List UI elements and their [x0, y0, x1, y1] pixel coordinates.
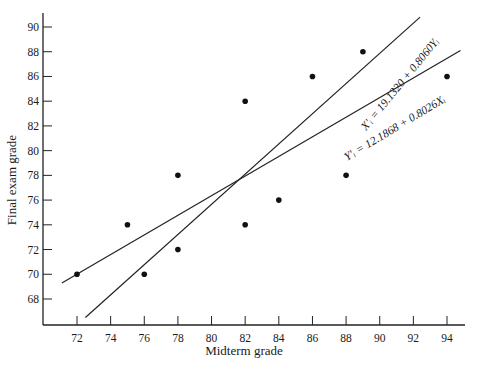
- data-point: [276, 197, 282, 203]
- x-axis-label: Midterm grade: [205, 343, 283, 358]
- y-tick-label: 74: [28, 219, 40, 231]
- y-on-x-equation-label: Y'ᵢ = 12.1868 + 0.8026Xᵢ: [342, 93, 447, 163]
- y-tick-label: 72: [28, 244, 40, 256]
- axes: 7274767880828486889092946870727476788082…: [28, 13, 466, 344]
- data-point: [310, 74, 316, 80]
- x-tick-label: 88: [340, 332, 352, 344]
- x-tick-label: 94: [441, 332, 453, 344]
- x-tick-label: 76: [139, 332, 151, 344]
- data-point: [343, 173, 349, 179]
- scatter-chart: 7274767880828486889092946870727476788082…: [0, 0, 478, 365]
- x-tick-label: 86: [307, 332, 319, 344]
- y-tick-label: 82: [28, 120, 40, 132]
- y-tick-label: 86: [28, 70, 40, 82]
- data-point: [74, 271, 80, 277]
- x-tick-label: 72: [71, 332, 83, 344]
- data-point: [141, 271, 147, 277]
- data-point: [360, 49, 366, 55]
- x-tick-label: 90: [374, 332, 386, 344]
- y-tick-label: 88: [28, 46, 40, 58]
- x-tick-label: 74: [105, 332, 117, 344]
- regression-lines: [62, 17, 461, 317]
- y-axis-label: Final exam grade: [4, 135, 19, 225]
- y-tick-label: 90: [28, 21, 40, 33]
- x-tick-label: 78: [172, 332, 184, 344]
- y-tick-label: 76: [28, 194, 40, 206]
- data-point: [444, 74, 450, 80]
- y-tick-label: 70: [28, 268, 40, 280]
- line-labels: X'ᵢ = 19.1320 + 0.8060YᵢY'ᵢ = 12.1868 + …: [342, 35, 447, 162]
- data-point: [242, 222, 248, 228]
- data-point: [242, 98, 248, 104]
- y-tick-label: 80: [28, 145, 40, 157]
- y-tick-label: 68: [28, 293, 40, 305]
- data-point: [125, 222, 131, 228]
- x-tick-label: 92: [408, 332, 420, 344]
- data-point: [175, 173, 181, 179]
- regression-line: [85, 17, 420, 317]
- data-point: [175, 247, 181, 253]
- y-tick-label: 84: [28, 95, 40, 107]
- y-tick-label: 78: [28, 169, 40, 181]
